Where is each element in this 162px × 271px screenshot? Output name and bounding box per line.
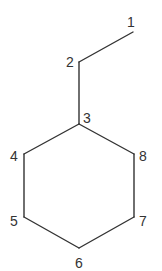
atom-labels: 1 2 3 4 5 6 7 8: [10, 14, 147, 271]
bond-3-4: [24, 124, 79, 154]
bonds: [24, 32, 134, 248]
atom-label-5: 5: [10, 213, 18, 229]
atom-label-8: 8: [139, 148, 147, 164]
bond-8-3: [79, 124, 134, 154]
atom-label-4: 4: [10, 148, 18, 164]
atom-label-2: 2: [66, 54, 74, 70]
atom-label-1: 1: [127, 14, 135, 30]
bond-5-6: [24, 217, 79, 248]
atom-label-7: 7: [139, 213, 147, 229]
bond-1-2: [79, 32, 133, 62]
atom-label-6: 6: [75, 255, 83, 271]
bond-6-7: [79, 217, 134, 248]
atom-label-3: 3: [83, 110, 91, 126]
ethylcyclohexane-diagram: 1 2 3 4 5 6 7 8: [0, 0, 162, 271]
